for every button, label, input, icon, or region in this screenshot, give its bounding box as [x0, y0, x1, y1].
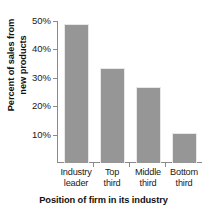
y-tick-label-20: 20%: [32, 100, 51, 111]
y-tick-label-40: 40%: [32, 43, 51, 54]
y-axis-title-line-2: new products: [18, 35, 28, 94]
x-category-line-1: Top: [105, 167, 119, 177]
x-category-line-1: Industry: [60, 167, 91, 177]
bar-slot-top-third: [94, 21, 130, 163]
x-category-line-1: Bottom: [170, 167, 198, 177]
bar-slot-bottom-third: [166, 21, 202, 163]
bar-top-third[interactable]: [100, 68, 125, 163]
x-category-line-2: third: [166, 178, 202, 189]
bar-industry-leader[interactable]: [64, 24, 89, 163]
y-tick-label-30: 30%: [32, 72, 51, 83]
y-tick-label-10: 10%: [32, 129, 51, 140]
x-category-middle-third: Middle third: [130, 167, 166, 189]
x-category-line-2: leader: [58, 178, 94, 189]
bar-slot-middle-third: [130, 21, 166, 163]
x-category-top-third: Top third: [94, 167, 130, 189]
x-axis-category-labels: Industry leader Top third Middle third B…: [58, 167, 202, 189]
y-tick-label-50: 50%: [32, 15, 51, 26]
x-category-bottom-third: Bottom third: [166, 167, 202, 189]
x-category-line-2: third: [130, 178, 166, 189]
x-category-industry-leader: Industry leader: [58, 167, 94, 189]
x-axis-title: Position of firm in its industry: [0, 195, 207, 205]
bar-middle-third[interactable]: [136, 87, 161, 163]
plot-area: 50% 40% 30% 20% 10%: [57, 21, 202, 163]
y-axis-title-line-1: Percent of sales from: [6, 19, 16, 111]
x-category-line-1: Middle: [135, 167, 161, 177]
bar-bottom-third[interactable]: [172, 133, 197, 163]
bar-series: [58, 21, 202, 163]
bar-chart: Percent of sales from new products 50% 4…: [0, 0, 207, 215]
bar-slot-industry-leader: [58, 21, 94, 163]
x-category-line-2: third: [94, 178, 130, 189]
